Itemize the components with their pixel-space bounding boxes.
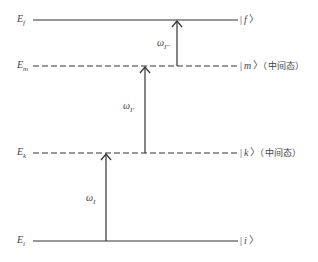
transition-arrow-3 (172, 21, 182, 66)
transition-label-3: ωI'' (157, 38, 169, 51)
transition-label-1: ωI (86, 193, 95, 206)
state-label-m: | m 〉（中间态） (240, 61, 304, 71)
energy-label-f: Ef (17, 14, 25, 27)
transition-arrow-2 (140, 67, 150, 153)
transition-label-2: ωI' (123, 101, 134, 114)
state-label-k: | k 〉（中间态） (240, 148, 301, 158)
energy-label-m: Em (17, 60, 28, 73)
energy-label-i: Ei (17, 235, 25, 248)
state-label-i: | i 〉 (240, 236, 259, 246)
state-label-f: | f 〉 (240, 15, 259, 25)
transition-arrow-1 (101, 154, 111, 241)
energy-label-k: Ek (17, 147, 26, 160)
